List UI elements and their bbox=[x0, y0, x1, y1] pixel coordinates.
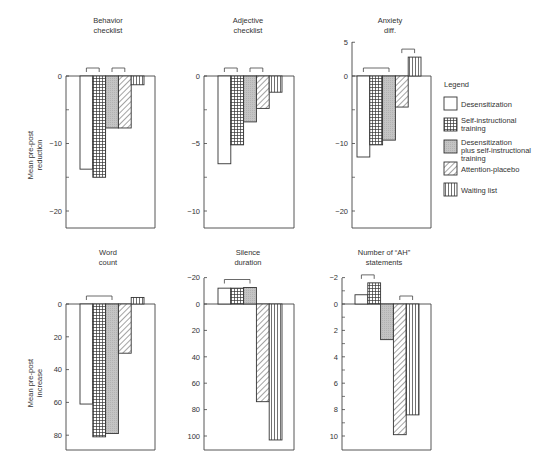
y-tick-label: −20 bbox=[335, 207, 348, 216]
legend-label: Desensitization bbox=[461, 100, 512, 109]
chart-title: checklist bbox=[94, 26, 124, 35]
bar-attention bbox=[118, 76, 131, 128]
legend-item-sit: Self-instructionaltraining bbox=[444, 116, 517, 133]
bar-combined bbox=[244, 76, 257, 122]
y-tick-label: 60 bbox=[192, 379, 200, 388]
significance-bracket bbox=[224, 280, 250, 284]
chart-title: Silence bbox=[236, 248, 261, 257]
y-tick-label: −10 bbox=[335, 139, 348, 148]
legend-item-waiting: Waiting list bbox=[444, 183, 498, 196]
y-tick-label: −2 bbox=[329, 273, 338, 282]
y-tick-label: −10 bbox=[187, 207, 200, 216]
bar-sit bbox=[370, 76, 383, 145]
legend-swatch bbox=[444, 140, 457, 153]
chart-title: duration bbox=[234, 258, 261, 267]
bar-sit bbox=[368, 283, 381, 304]
chart-title: Word bbox=[99, 248, 117, 257]
bar-desens bbox=[80, 304, 93, 404]
y-tick-label: 80 bbox=[192, 405, 200, 414]
y-tick-label: 6 bbox=[334, 379, 338, 388]
bar-sit bbox=[93, 304, 106, 437]
bar-desens bbox=[218, 288, 231, 304]
bar-attention bbox=[256, 76, 269, 108]
y-tick-label: 80 bbox=[54, 431, 62, 440]
y-tick-label: 60 bbox=[54, 398, 62, 407]
legend-swatch bbox=[444, 118, 457, 131]
chart-panel-4: Silenceduration−20020406080100 bbox=[187, 248, 294, 450]
y-tick-label: −20 bbox=[49, 207, 62, 216]
y-tick-label: −5 bbox=[191, 139, 200, 148]
figure: Behaviorchecklist0−10−20Adjectivecheckli… bbox=[0, 0, 551, 472]
bar-waiting bbox=[131, 76, 144, 85]
significance-bracket bbox=[250, 68, 263, 72]
y-tick-label: 100 bbox=[187, 432, 200, 441]
legend-swatch bbox=[444, 97, 457, 110]
bar-combined bbox=[106, 304, 119, 434]
y-tick-label: 10 bbox=[330, 432, 338, 441]
significance-bracket bbox=[402, 49, 415, 53]
significance-bracket bbox=[361, 275, 374, 279]
legend: LegendDesensitizationSelf-instructionalt… bbox=[444, 80, 531, 196]
bar-desens bbox=[355, 295, 368, 304]
y-tick-label: 40 bbox=[54, 365, 62, 374]
bar-attention bbox=[395, 76, 408, 107]
legend-swatch bbox=[444, 162, 457, 175]
y-tick-label: 8 bbox=[334, 405, 338, 414]
bar-desens bbox=[80, 76, 93, 169]
legend-item-combined: Desensitizationplus self-instructionaltr… bbox=[444, 138, 531, 164]
bar-waiting bbox=[406, 304, 419, 415]
legend-item-attention: Attention-placebo bbox=[444, 162, 519, 175]
legend-label: training bbox=[461, 154, 486, 163]
bar-waiting bbox=[269, 76, 282, 92]
chart-panel-5: Number of “AH”statements−20246810 bbox=[329, 248, 431, 450]
bar-combined bbox=[383, 76, 396, 140]
bar-desens bbox=[218, 76, 231, 164]
y-tick-label: 20 bbox=[192, 326, 200, 335]
legend-label: Attention-placebo bbox=[461, 165, 519, 174]
bar-combined bbox=[381, 304, 394, 340]
legend-item-desens: Desensitization bbox=[444, 97, 512, 110]
y-tick-label: 0 bbox=[58, 300, 62, 309]
chart-panel-1: Adjectivechecklist0−5−10 bbox=[187, 16, 294, 228]
y-tick-label: 0 bbox=[196, 300, 200, 309]
bar-attention bbox=[256, 304, 269, 402]
bar-sit bbox=[231, 288, 244, 304]
y-tick-label: 0 bbox=[334, 300, 338, 309]
y-tick-label: −10 bbox=[49, 139, 62, 148]
y-tick-label: 2 bbox=[334, 326, 338, 335]
chart-panel-0: Behaviorchecklist0−10−20 bbox=[49, 16, 155, 228]
y-tick-label: 0 bbox=[196, 72, 200, 81]
y-tick-label: 4 bbox=[334, 353, 338, 362]
chart-title: count bbox=[99, 258, 118, 267]
bar-sit bbox=[231, 76, 244, 145]
bar-desens bbox=[357, 76, 370, 157]
significance-bracket bbox=[400, 296, 413, 300]
significance-bracket bbox=[363, 68, 389, 72]
y-tick-label: 0 bbox=[58, 72, 62, 81]
legend-label: Waiting list bbox=[461, 186, 498, 195]
y-tick-label: 5 bbox=[344, 38, 348, 47]
chart-panel-2: Anxietydiff.50−10−20 bbox=[335, 16, 431, 228]
chart-title: diff. bbox=[384, 26, 396, 35]
chart-title: Adjective bbox=[233, 16, 263, 25]
bar-attention bbox=[118, 304, 131, 353]
bar-sit bbox=[93, 76, 106, 177]
significance-bracket bbox=[224, 68, 237, 72]
y-tick-label: 40 bbox=[192, 353, 200, 362]
significance-bracket bbox=[112, 68, 125, 72]
bar-waiting bbox=[408, 57, 421, 76]
bar-combined bbox=[106, 76, 119, 128]
y-axis-label: increase bbox=[35, 369, 44, 397]
y-axis-label: Mean pre-post bbox=[26, 358, 35, 407]
y-axis-label: Mean pre-post bbox=[26, 130, 35, 179]
chart-title: Behavior bbox=[93, 16, 123, 25]
chart-title: Anxiety bbox=[378, 16, 403, 25]
y-tick-label: 20 bbox=[54, 333, 62, 342]
legend-title: Legend bbox=[444, 80, 469, 89]
y-tick-label: −20 bbox=[187, 273, 200, 282]
legend-swatch bbox=[444, 183, 457, 196]
y-tick-label: 0 bbox=[344, 72, 348, 81]
legend-label: training bbox=[461, 124, 486, 133]
significance-bracket bbox=[86, 296, 112, 300]
bar-waiting bbox=[269, 304, 282, 440]
